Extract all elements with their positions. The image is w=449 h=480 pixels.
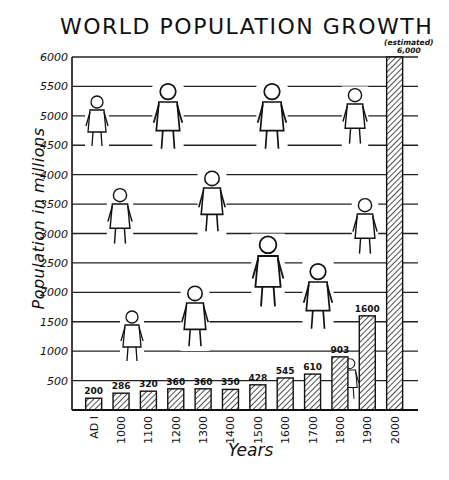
x-tick-label: 1000 (115, 416, 128, 444)
bar-1500: 428 (248, 373, 267, 410)
y-tick-label: 5000 (40, 110, 68, 123)
bar-1100: 320 (139, 379, 158, 410)
illustration-woman-with-jar (302, 261, 333, 334)
illustration-horseman (152, 81, 183, 154)
x-tick-label: 1800 (334, 416, 347, 444)
x-tick-label: 1200 (170, 416, 183, 444)
bar-value-label: 610 (303, 362, 322, 372)
y-tick-label: 500 (47, 375, 68, 388)
bar-value-label: 1600 (355, 304, 380, 314)
y-tick-label: 5500 (40, 80, 68, 93)
bar-value-label: 903 (331, 345, 350, 355)
x-tick-labels: AD I100011001200130014001500160017001800… (88, 416, 402, 444)
x-tick-label: 1300 (197, 416, 210, 444)
illustration-traveler-with-basket (198, 169, 227, 236)
bar-1000: 286 (112, 381, 131, 410)
bar-value-label: 200 (84, 386, 103, 396)
illustration-primitive-man (85, 94, 109, 150)
illustration-boy-in-striped-shirt (352, 196, 378, 258)
bar-1200: 360 (166, 377, 185, 410)
bar-value-label: 545 (276, 366, 295, 376)
bar-value-label: 350 (221, 377, 240, 387)
y-tick-label: 1500 (40, 316, 68, 329)
bar-1400: 350 (221, 377, 240, 410)
y-tick-label: 6000 (40, 51, 68, 64)
illustration-roman-child (120, 309, 144, 365)
bar-value-label: 360 (194, 377, 213, 387)
x-tick-label: 2000 (389, 416, 402, 444)
illustration-spear-thrower (181, 284, 210, 351)
bar-1800: 903 (331, 345, 350, 410)
y-tick-label: 4000 (40, 169, 68, 182)
y-tick-label: 3500 (40, 198, 68, 211)
x-tick-label: 1400 (224, 416, 237, 444)
bar-1600: 545 (276, 366, 295, 410)
y-tick-label: 2000 (40, 286, 68, 299)
bar-value-label: 428 (248, 373, 267, 383)
bar-2000 (387, 57, 403, 410)
y-tick-label: 1000 (40, 345, 68, 358)
bar-1700: 610 (303, 362, 322, 410)
y-tick-label: 3000 (40, 228, 68, 241)
illustration-girl-with-flowers (342, 86, 368, 148)
y-tick-label: 4500 (40, 139, 68, 152)
bar-1300: 360 (194, 377, 213, 410)
x-tick-label: 1600 (279, 416, 292, 444)
illustration-dancer (256, 81, 287, 154)
x-tick-label: AD I (88, 416, 101, 439)
x-tick-label: 1100 (142, 416, 155, 444)
bar-value-label: 286 (112, 381, 131, 391)
bar-value-label: 360 (166, 377, 185, 387)
illustration-fur-clad-child (107, 186, 133, 248)
x-tick-label: 1700 (307, 416, 320, 444)
illustration-monk (251, 234, 285, 312)
y-tick-labels: 5001000150020002500300035004000450050005… (40, 51, 68, 388)
x-tick-label: 1900 (361, 416, 374, 444)
bar-ad-i: 200 (84, 386, 103, 410)
y-tick-label: 2500 (40, 257, 68, 270)
chart-plot-area: 5001000150020002500300035004000450050005… (0, 0, 449, 480)
x-tick-label: 1500 (252, 416, 265, 444)
bar-value-label: 320 (139, 379, 158, 389)
